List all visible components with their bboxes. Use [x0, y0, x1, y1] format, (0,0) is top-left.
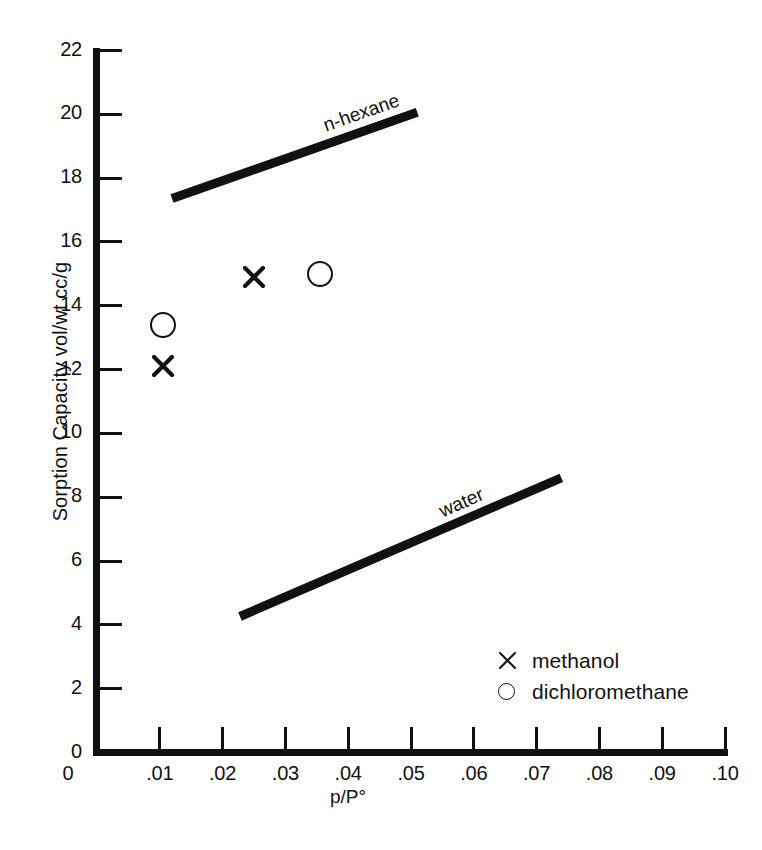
legend-circle-icon — [498, 683, 532, 700]
x-tick-mark — [598, 727, 601, 750]
y-tick-mark — [100, 623, 122, 626]
y-tick-mark — [100, 304, 122, 307]
x-tick-mark — [661, 727, 664, 750]
legend-x-icon — [498, 651, 532, 670]
x-tick-label: .03 — [256, 762, 314, 785]
legend-item-dichloromethane: dichloromethane — [498, 676, 689, 707]
x-tick-mark — [158, 727, 161, 750]
x-tick-label: .10 — [696, 762, 754, 785]
data-point-circle-dichloromethane — [307, 261, 333, 287]
x-tick-mark — [284, 727, 287, 750]
x-tick-mark — [347, 727, 350, 750]
chart-legend: methanoldichloromethane — [498, 645, 689, 707]
legend-label: methanol — [532, 649, 619, 673]
data-point-circle-dichloromethane — [150, 312, 176, 338]
y-tick-mark — [100, 496, 122, 499]
x-tick-label: .07 — [508, 762, 566, 785]
chart-canvas: 0246810121416182022 .01.02.03.04.05.06.0… — [0, 0, 762, 850]
x-tick-mark — [724, 727, 727, 750]
trend-band-n-hexane — [171, 108, 419, 203]
y-tick-mark — [100, 432, 122, 435]
x-origin-label: 0 — [39, 762, 97, 785]
y-tick-mark — [100, 49, 122, 52]
x-tick-label: .08 — [570, 762, 628, 785]
y-tick-mark — [100, 177, 122, 180]
x-tick-mark — [535, 727, 538, 750]
circle-icon — [498, 683, 515, 700]
x-tick-mark — [221, 727, 224, 750]
x-tick-label: .02 — [194, 762, 252, 785]
y-tick-mark — [100, 240, 122, 243]
y-axis-title: Sorption Capacity vol/wt cc/g — [49, 182, 72, 602]
y-tick-label: 2 — [36, 676, 82, 699]
x-axis-title: p/P° — [330, 786, 366, 808]
y-tick-mark — [100, 113, 122, 116]
x-tick-label: .05 — [382, 762, 440, 785]
data-point-x-methanol — [152, 355, 174, 377]
x-axis-line — [93, 749, 728, 756]
y-tick-label: 22 — [36, 38, 82, 61]
y-tick-mark — [100, 368, 122, 371]
x-tick-label: .01 — [131, 762, 189, 785]
x-tick-label: .06 — [445, 762, 503, 785]
x-tick-mark — [410, 727, 413, 750]
x-tick-label: .09 — [633, 762, 691, 785]
y-tick-mark — [100, 560, 122, 563]
legend-label: dichloromethane — [532, 680, 689, 704]
y-tick-label: 0 — [36, 740, 82, 763]
trend-band-water — [238, 474, 563, 621]
x-tick-mark — [472, 727, 475, 750]
y-tick-mark — [100, 687, 122, 690]
legend-item-methanol: methanol — [498, 645, 689, 676]
y-axis-line — [93, 48, 100, 756]
y-tick-label: 20 — [36, 101, 82, 124]
x-tick-label: .04 — [319, 762, 377, 785]
y-tick-label: 4 — [36, 612, 82, 635]
data-point-x-methanol — [243, 266, 265, 288]
